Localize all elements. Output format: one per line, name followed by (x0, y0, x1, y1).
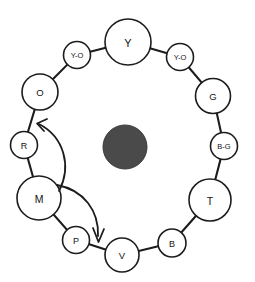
node-bg[interactable]: B-G (211, 133, 238, 160)
link-bg-to-g (216, 111, 221, 135)
node-label-p: P (73, 236, 79, 246)
link-o-to-r (27, 107, 35, 134)
node-label-yo-l: Y-O (71, 51, 84, 60)
link-yo-l-to-o (51, 63, 69, 81)
link-v-to-b (137, 246, 161, 252)
node-b[interactable]: B (158, 229, 186, 257)
node-label-b: B (169, 239, 175, 249)
link-r-to-m (27, 156, 33, 179)
link-g-to-yo-r (187, 66, 203, 84)
node-r[interactable]: R (11, 132, 38, 159)
node-o[interactable]: O (22, 74, 58, 110)
node-yo-r[interactable]: Y-O (167, 44, 194, 71)
node-t[interactable]: T (189, 179, 231, 221)
node-yo-l[interactable]: Y-O (64, 42, 91, 69)
node-m[interactable]: M (17, 176, 61, 220)
center-hub-group (103, 125, 147, 169)
node-label-yo-r: Y-O (174, 53, 187, 62)
node-label-v: V (119, 250, 126, 261)
color-wheel-canvas: YY-OY-OOGRB-GMTPBV (0, 0, 255, 282)
node-p[interactable]: P (63, 227, 90, 254)
link-m-to-p (52, 213, 68, 231)
center-hub-circle (103, 125, 147, 169)
link-t-to-bg (215, 157, 221, 181)
color-wheel-diagram: YY-OY-OOGRB-GMTPBV (0, 0, 255, 282)
node-label-r: R (21, 141, 28, 151)
node-label-m: M (35, 193, 44, 205)
link-b-to-t (180, 214, 197, 234)
link-yo-r-to-y (148, 48, 169, 54)
node-g[interactable]: G (196, 79, 231, 114)
node-label-g: G (209, 91, 216, 102)
node-v[interactable]: V (105, 238, 139, 272)
node-label-bg: B-G (217, 142, 231, 151)
link-y-to-yo-l (88, 47, 108, 52)
link-p-to-v (87, 244, 108, 251)
node-label-t: T (207, 195, 214, 207)
node-label-y: Y (124, 37, 132, 49)
node-y[interactable]: Y (105, 19, 151, 65)
node-label-o: O (36, 87, 43, 98)
